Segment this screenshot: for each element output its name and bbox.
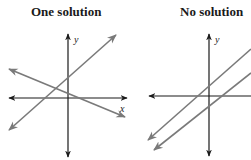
parallel-line-upper: [148, 49, 251, 140]
graphs-canvas: y x y: [0, 0, 251, 160]
graph-one-solution: y x: [9, 34, 127, 157]
y-axis-label: y: [214, 34, 220, 45]
rising-line: [9, 35, 116, 130]
x-axis-label: x: [119, 103, 125, 114]
parallel-line-lower: [154, 73, 251, 150]
graph-no-solution: y: [148, 34, 251, 156]
y-axis-label: y: [73, 34, 79, 45]
falling-line: [9, 69, 125, 117]
